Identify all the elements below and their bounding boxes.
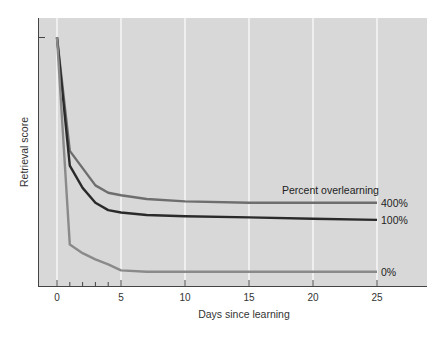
x-axis-title: Days since learning: [198, 308, 290, 320]
x-tick-label: 25: [371, 292, 383, 303]
x-tick-label: 10: [179, 292, 191, 303]
forgetting-curve-chart: 0510152025 400%100%0% Percent overlearni…: [0, 0, 447, 339]
series-label-100pct: 100%: [381, 214, 408, 226]
x-tick-label: 0: [54, 292, 60, 303]
legend-title: Percent overlearning: [282, 184, 379, 196]
series-label-400pct: 400%: [381, 197, 408, 209]
x-tick-label: 20: [307, 292, 319, 303]
x-tick-label: 15: [243, 292, 255, 303]
x-tick-label: 5: [118, 292, 124, 303]
series-label-0pct: 0%: [381, 266, 396, 278]
y-axis-title: Retrieval score: [18, 117, 30, 187]
plot-background: [38, 18, 427, 286]
